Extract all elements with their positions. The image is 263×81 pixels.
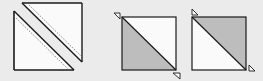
dog-ear-marker-icon bbox=[249, 65, 255, 71]
dog-ear-marker-icon bbox=[192, 9, 198, 15]
quilt-diagram bbox=[0, 0, 263, 81]
dog-ear-marker-icon bbox=[173, 73, 180, 79]
dog-ear-marker-icon bbox=[114, 13, 120, 19]
figure-hst-dark-upper-right bbox=[192, 9, 255, 71]
figure-hst-dark-lower-left bbox=[114, 13, 180, 79]
figure-cut-square bbox=[14, 3, 82, 70]
